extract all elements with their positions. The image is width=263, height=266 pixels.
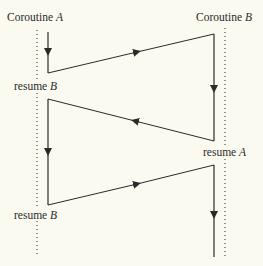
resume-b-label: resume B	[14, 80, 57, 92]
resume-a-label: resume A	[203, 146, 247, 158]
coroutine-b-header: Coroutine B	[196, 11, 252, 23]
transfer-b-to-a	[135, 121, 214, 141]
coroutine-diagram: Coroutine A Coroutine B resume B resume …	[0, 0, 263, 266]
transfer-a-to-b	[48, 52, 137, 73]
coroutine-a-header: Coroutine A	[7, 11, 64, 23]
transfer-a-to-b	[48, 184, 137, 205]
resume-b-label: resume B	[14, 209, 57, 221]
